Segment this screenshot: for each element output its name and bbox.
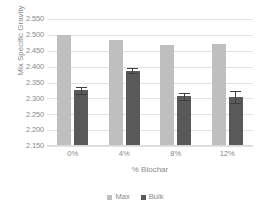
bar-group	[47, 19, 99, 146]
plot-area	[47, 19, 253, 146]
gridline	[47, 146, 253, 147]
legend-swatch-icon	[107, 195, 112, 200]
bar-group	[202, 19, 254, 146]
bar-max	[160, 45, 174, 146]
bar-bulk	[74, 90, 88, 146]
legend-swatch-icon	[141, 195, 146, 200]
x-axis-line	[47, 145, 253, 146]
x-axis-tick-label: 12%	[202, 149, 254, 158]
y-axis-tick-label: 2.250	[2, 111, 44, 118]
y-axis-title: Mix Specific Gravity	[16, 0, 25, 106]
bar-bulk	[229, 97, 243, 146]
chart-legend: MaxBulk	[0, 193, 271, 201]
bar-chart: 2.5502.5002.4502.4002.3502.3002.2502.200…	[0, 0, 271, 213]
bar-bulk	[177, 96, 191, 146]
x-axis-tick-labels: 0%4%8%12%	[47, 149, 253, 161]
x-axis-tick-label: 4%	[99, 149, 151, 158]
error-bar	[230, 91, 241, 102]
legend-label: Max	[115, 193, 129, 201]
x-axis-title: % Biochar	[47, 165, 253, 174]
error-bar	[127, 68, 138, 73]
y-axis-tick-label: 2.150	[2, 142, 44, 149]
legend-item[interactable]: Max	[107, 193, 129, 201]
error-bar	[76, 87, 87, 95]
bar-bulk	[126, 71, 140, 146]
bar-group	[150, 19, 202, 146]
y-axis-tick-label: 2.200	[2, 126, 44, 133]
x-axis-tick-label: 8%	[150, 149, 202, 158]
bar-group	[99, 19, 151, 146]
legend-label: Bulk	[149, 193, 164, 201]
x-axis-tick-label: 0%	[47, 149, 99, 158]
legend-item[interactable]: Bulk	[141, 193, 164, 201]
bar-max	[109, 40, 123, 146]
bar-max	[212, 44, 226, 146]
bar-max	[57, 35, 71, 146]
error-bar	[179, 93, 190, 100]
